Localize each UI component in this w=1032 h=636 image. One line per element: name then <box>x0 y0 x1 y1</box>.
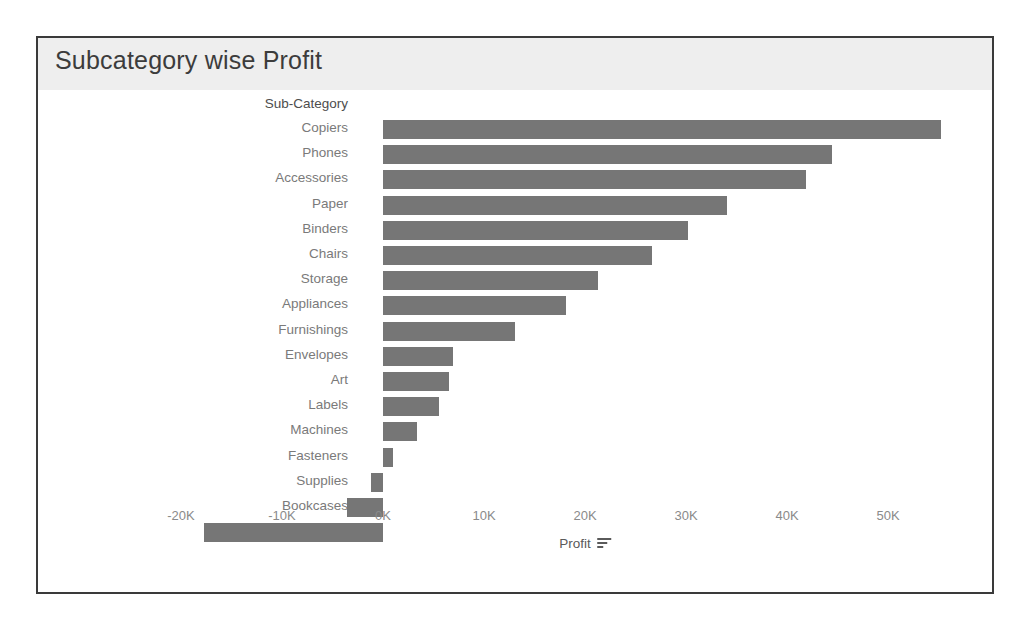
x-axis-tick-label: 40K <box>775 508 798 523</box>
bar-row[interactable]: Fasteners <box>38 444 992 470</box>
bar[interactable] <box>383 347 453 366</box>
category-label[interactable]: Binders <box>38 221 348 236</box>
bar[interactable] <box>383 422 417 441</box>
chart-card: Subcategory wise Profit Sub-Category Cop… <box>36 36 994 594</box>
bar[interactable] <box>383 296 566 315</box>
bar[interactable] <box>383 170 806 189</box>
bar-row[interactable]: Appliances <box>38 292 992 318</box>
category-label[interactable]: Supplies <box>38 473 348 488</box>
bar[interactable] <box>383 271 598 290</box>
card-title-band: Subcategory wise Profit <box>38 38 992 90</box>
bar[interactable] <box>383 322 515 341</box>
bar-row[interactable]: Storage <box>38 267 992 293</box>
bar-row[interactable]: Paper <box>38 192 992 218</box>
x-axis-tick-label: 20K <box>573 508 596 523</box>
category-label[interactable]: Storage <box>38 271 348 286</box>
category-label[interactable]: Phones <box>38 145 348 160</box>
bar-row[interactable]: Copiers <box>38 116 992 142</box>
category-label[interactable]: Chairs <box>38 246 348 261</box>
category-label[interactable]: Furnishings <box>38 322 348 337</box>
bar[interactable] <box>383 246 652 265</box>
bar[interactable] <box>383 196 727 215</box>
sort-descending-icon[interactable] <box>597 538 611 549</box>
x-axis-tick-label: 0K <box>375 508 391 523</box>
x-axis-tick-label: -20K <box>167 508 194 523</box>
chart-plot-area[interactable]: Sub-Category CopiersPhonesAccessoriesPap… <box>38 90 992 592</box>
x-axis-tick-label: 50K <box>876 508 899 523</box>
bar[interactable] <box>371 473 383 492</box>
category-label[interactable]: Fasteners <box>38 448 348 463</box>
x-axis-title[interactable]: Profit <box>559 536 611 551</box>
bar-row[interactable]: Phones <box>38 141 992 167</box>
bar[interactable] <box>383 120 941 139</box>
category-label[interactable]: Envelopes <box>38 347 348 362</box>
x-axis-tick-label: 30K <box>674 508 697 523</box>
category-label[interactable]: Machines <box>38 422 348 437</box>
x-axis-tick-label: -10K <box>268 508 295 523</box>
bar-row[interactable]: Envelopes <box>38 343 992 369</box>
category-label[interactable]: Paper <box>38 196 348 211</box>
category-label[interactable]: Appliances <box>38 296 348 311</box>
bar-row[interactable]: Chairs <box>38 242 992 268</box>
category-axis-header: Sub-Category <box>38 96 348 111</box>
bar[interactable] <box>383 397 439 416</box>
bar-row[interactable]: Labels <box>38 393 992 419</box>
bar-row[interactable]: Supplies <box>38 469 992 495</box>
x-axis-tick-label: 10K <box>472 508 495 523</box>
bar[interactable] <box>383 221 688 240</box>
bar[interactable] <box>383 448 393 467</box>
category-label[interactable]: Copiers <box>38 120 348 135</box>
category-label[interactable]: Labels <box>38 397 348 412</box>
bar[interactable] <box>383 372 449 391</box>
bar[interactable] <box>383 145 832 164</box>
bar-row[interactable]: Accessories <box>38 166 992 192</box>
bar-row[interactable]: Art <box>38 368 992 394</box>
bar-row[interactable]: Binders <box>38 217 992 243</box>
category-label[interactable]: Art <box>38 372 348 387</box>
category-label[interactable]: Accessories <box>38 170 348 185</box>
x-axis-ticks: -20K-10K0K10K20K30K40K50K <box>38 508 992 530</box>
x-axis-title-label: Profit <box>559 536 591 551</box>
bar-row[interactable]: Furnishings <box>38 318 992 344</box>
bar-row[interactable]: Machines <box>38 418 992 444</box>
page-title: Subcategory wise Profit <box>55 46 322 75</box>
